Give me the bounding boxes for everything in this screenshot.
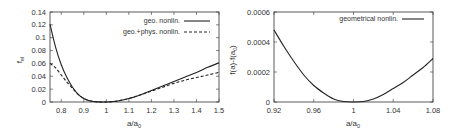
x-tick-label: 1.3	[169, 106, 179, 115]
x-tick-label: 0.92	[267, 106, 282, 115]
y-tick-label: 0	[42, 98, 46, 107]
y-tick-label: 0.04	[31, 72, 46, 81]
series-line	[50, 24, 219, 102]
x-tick-label: 1.4	[191, 106, 201, 115]
x-tick-label: 1.1	[124, 106, 134, 115]
y-tick-label: 0.0004	[247, 38, 270, 47]
plot-frame	[274, 12, 433, 102]
y-axis-label: f(a)-f(a0)	[228, 45, 238, 75]
y-tick-label: 0.1	[36, 33, 46, 42]
left-plot: 00.020.040.060.080.10.120.14 0.80.911.11…	[15, 8, 224, 130]
legend: geometrical nonlin.	[339, 15, 424, 23]
y-tick-label: 0.08	[31, 46, 46, 55]
x-tick-label: 1	[351, 106, 355, 115]
x-axis-label: a/a0	[127, 119, 141, 129]
plot-frame	[50, 12, 219, 102]
x-tick-label: 1.08	[426, 106, 441, 115]
x-tick-label: 0.8	[56, 106, 66, 115]
x-tick-label: 1.5	[214, 106, 224, 115]
figure: 00.020.040.060.080.10.120.14 0.80.911.11…	[0, 0, 459, 136]
series-line	[274, 30, 433, 102]
y-tick-label: 0.12	[31, 20, 46, 29]
legend: geo. nonlin. geo.+phys. nonlin.	[123, 17, 210, 36]
legend-label-0: geometrical nonlin.	[339, 15, 398, 23]
x-tick-label: 1.04	[386, 106, 401, 115]
x-tick-label: 1	[104, 106, 108, 115]
x-tick-label: 1.2	[146, 106, 156, 115]
y-tick-label: 0.0006	[247, 8, 270, 17]
y-tick-label: 0.14	[31, 8, 46, 17]
y-tick-label: 0.06	[31, 59, 46, 68]
x-tick-label: 0.9	[79, 106, 89, 115]
x-tick-label: 0.96	[306, 106, 321, 115]
y-tick-label: 0.0002	[247, 68, 270, 77]
y-axis-label: fel	[15, 57, 25, 64]
legend-label-1: geo.+phys. nonlin.	[123, 28, 180, 36]
y-tick-label: 0.02	[31, 85, 46, 94]
right-plot: 00.00020.00040.0006 0.920.9611.041.08 f(…	[228, 8, 440, 130]
series-line	[50, 63, 219, 102]
legend-label-0: geo. nonlin.	[144, 17, 180, 25]
x-axis-label: a/a0	[346, 119, 360, 129]
